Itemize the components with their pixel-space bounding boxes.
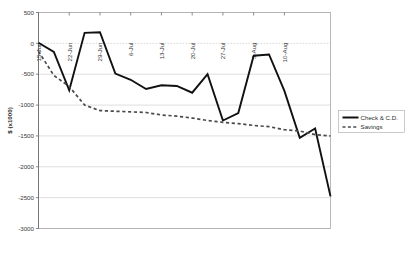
x-axis-tick-labels: 15-Jun22-Jun29-Jun6-Jul13-Jul20-Jul27-Ju… [35,13,288,63]
legend-label: Savings [361,123,383,130]
y-tick-label: -3000 [18,225,34,232]
chart-container: 5000-500-1000-1500-2000-2500-3000 15-Jun… [0,0,408,256]
y-axis-title-group: $ (x1000) [6,107,13,134]
series-line-dashed [39,51,331,136]
legend-label: Check & C.D. [361,114,399,121]
line-chart: 5000-500-1000-1500-2000-2500-3000 15-Jun… [0,0,408,256]
legend: Check & C.D.Savings [339,111,405,133]
x-tick-label: 20-Jul [189,43,196,60]
y-axis-title: $ (x1000) [6,107,13,134]
x-tick-label: 6-Jul [127,43,134,56]
y-tick-label: -500 [22,70,35,77]
y-tick-label: 500 [24,9,35,16]
y-tick-label: -2500 [18,194,34,201]
y-tick-label: -2000 [18,163,34,170]
y-tick-label: -1500 [18,132,34,139]
x-tick-label: 22-Jun [66,42,73,61]
y-axis-tick-labels: 5000-500-1000-1500-2000-2500-3000 [18,9,38,232]
x-tick-label: 27-Jul [219,43,226,60]
x-tick-label: 10-Aug [281,42,288,63]
y-tick-label: -1000 [18,101,34,108]
x-tick-label: 29-Jun [96,42,103,61]
x-tick-label: 13-Jul [158,43,165,60]
